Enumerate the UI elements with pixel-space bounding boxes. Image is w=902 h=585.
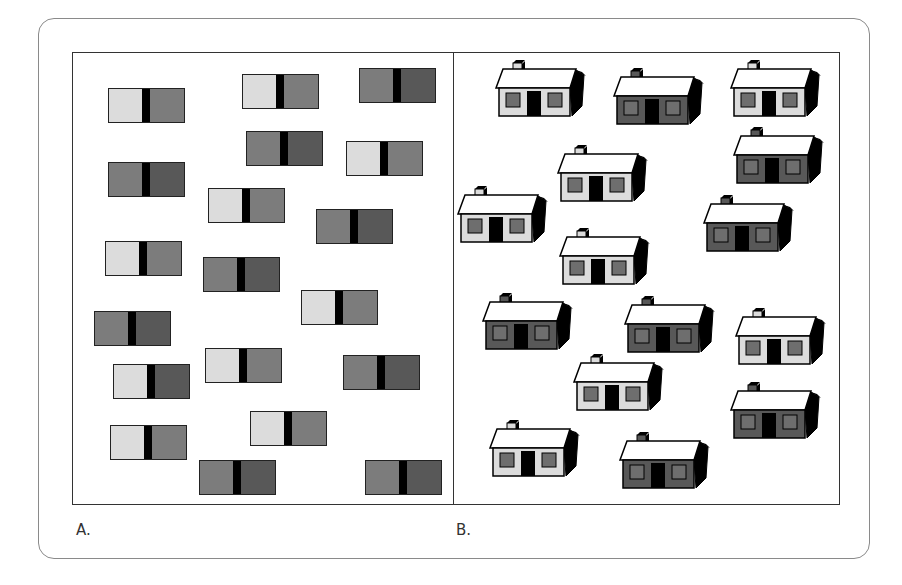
rectangle-left-half	[109, 163, 142, 196]
rectangle-left-half	[251, 412, 284, 445]
rectangle-left-half	[344, 356, 377, 389]
rectangle-left-half	[302, 291, 335, 324]
rectangle-left-half	[209, 189, 242, 222]
rectangle-left-half	[206, 349, 239, 382]
two-tone-rectangle	[108, 88, 185, 123]
dark-house-icon	[704, 195, 794, 253]
rectangle-divider-bar	[147, 365, 155, 398]
rectangle-divider-bar	[399, 461, 407, 494]
rectangle-left-half	[247, 132, 280, 165]
two-tone-rectangle	[246, 131, 323, 166]
two-tone-rectangle	[316, 209, 393, 244]
two-tone-rectangle	[343, 355, 420, 390]
rectangle-left-half	[243, 75, 276, 108]
rectangle-divider-bar	[350, 210, 358, 243]
two-tone-rectangle	[346, 141, 423, 176]
two-tone-rectangle	[108, 162, 185, 197]
rectangle-divider-bar	[280, 132, 288, 165]
two-tone-rectangle	[250, 411, 327, 446]
rectangle-right-half	[292, 412, 326, 445]
dark-house-icon	[614, 68, 704, 126]
rectangle-divider-bar	[237, 258, 245, 291]
rectangle-right-half	[284, 75, 318, 108]
rectangle-divider-bar	[276, 75, 284, 108]
rectangle-left-half	[317, 210, 350, 243]
rectangle-right-half	[150, 163, 184, 196]
rectangle-right-half	[241, 461, 275, 494]
rectangle-left-half	[106, 242, 139, 275]
rectangle-left-half	[114, 365, 147, 398]
two-tone-rectangle	[199, 460, 276, 495]
rectangle-right-half	[401, 69, 435, 102]
rectangle-divider-bar	[144, 426, 152, 459]
two-tone-rectangle	[110, 425, 187, 460]
dark-house-icon	[625, 296, 715, 354]
rectangle-right-half	[152, 426, 186, 459]
dark-house-icon	[483, 293, 573, 351]
two-tone-rectangle	[301, 290, 378, 325]
rectangle-divider-bar	[128, 312, 136, 345]
rectangle-divider-bar	[393, 69, 401, 102]
light-house-icon	[490, 420, 580, 478]
rectangle-left-half	[347, 142, 380, 175]
light-house-icon	[736, 308, 826, 366]
light-house-icon	[560, 228, 650, 286]
rectangle-left-half	[360, 69, 393, 102]
rectangle-divider-bar	[284, 412, 292, 445]
two-tone-rectangle	[208, 188, 285, 223]
two-tone-rectangle	[359, 68, 436, 103]
rectangle-left-half	[111, 426, 144, 459]
rectangle-right-half	[358, 210, 392, 243]
dark-house-icon	[620, 432, 710, 490]
two-tone-rectangle	[105, 241, 182, 276]
light-house-icon	[558, 145, 648, 203]
rectangle-right-half	[247, 349, 281, 382]
two-tone-rectangle	[242, 74, 319, 109]
light-house-icon	[574, 354, 664, 412]
panel-b-label: B.	[456, 521, 471, 539]
light-house-icon	[496, 60, 586, 118]
light-house-icon	[458, 186, 548, 244]
two-tone-rectangle	[365, 460, 442, 495]
rectangle-divider-bar	[380, 142, 388, 175]
two-tone-rectangle	[113, 364, 190, 399]
rectangle-right-half	[288, 132, 322, 165]
rectangle-left-half	[109, 89, 142, 122]
rectangle-left-half	[200, 461, 233, 494]
rectangle-right-half	[155, 365, 189, 398]
rectangle-right-half	[147, 242, 181, 275]
light-house-icon	[731, 60, 821, 118]
rectangle-divider-bar	[377, 356, 385, 389]
two-tone-rectangle	[203, 257, 280, 292]
two-tone-rectangle	[205, 348, 282, 383]
rectangle-right-half	[250, 189, 284, 222]
rectangle-divider-bar	[233, 461, 241, 494]
rectangle-divider-bar	[335, 291, 343, 324]
rectangle-right-half	[343, 291, 377, 324]
panel-a-label: A.	[76, 521, 91, 539]
rectangle-right-half	[407, 461, 441, 494]
rectangle-divider-bar	[139, 242, 147, 275]
rectangle-left-half	[95, 312, 128, 345]
rectangle-divider-bar	[242, 189, 250, 222]
two-tone-rectangle	[94, 311, 171, 346]
rectangle-right-half	[388, 142, 422, 175]
rectangle-right-half	[385, 356, 419, 389]
rectangle-divider-bar	[142, 163, 150, 196]
rectangle-right-half	[150, 89, 184, 122]
rectangle-right-half	[136, 312, 170, 345]
dark-house-icon	[731, 382, 821, 440]
rectangle-left-half	[204, 258, 237, 291]
rectangle-divider-bar	[239, 349, 247, 382]
rectangle-left-half	[366, 461, 399, 494]
dark-house-icon	[734, 127, 824, 185]
rectangle-right-half	[245, 258, 279, 291]
rectangle-divider-bar	[142, 89, 150, 122]
